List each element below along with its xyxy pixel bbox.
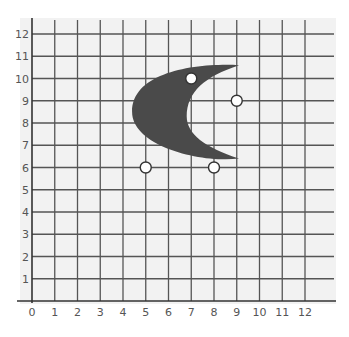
x-tick-label: 4 (120, 306, 127, 319)
x-tick-label: 10 (253, 306, 267, 319)
y-tick-label: 9 (22, 95, 29, 108)
coordinate-grid-diagram: 123456789101112 0123456789101112 (0, 0, 349, 337)
x-axis-labels: 0123456789101112 (29, 306, 313, 319)
y-tick-label: 3 (22, 228, 29, 241)
x-tick-label: 6 (165, 306, 172, 319)
point-circle (231, 95, 242, 106)
grid-svg: 123456789101112 0123456789101112 (0, 0, 349, 337)
x-tick-label: 3 (97, 306, 104, 319)
y-tick-label: 10 (15, 73, 29, 86)
point-circle (209, 162, 220, 173)
y-tick-label: 6 (22, 162, 29, 175)
x-tick-label: 12 (298, 306, 312, 319)
point-circle (140, 162, 151, 173)
y-tick-label: 1 (22, 273, 29, 286)
x-tick-label: 7 (188, 306, 195, 319)
point-circle (186, 73, 197, 84)
y-tick-label: 11 (15, 50, 29, 63)
y-tick-label: 2 (22, 251, 29, 264)
y-tick-label: 7 (22, 139, 29, 152)
y-tick-label: 4 (22, 206, 29, 219)
x-tick-label: 2 (74, 306, 81, 319)
y-tick-label: 5 (22, 184, 29, 197)
x-tick-label: 0 (29, 306, 36, 319)
x-tick-label: 5 (142, 306, 149, 319)
x-tick-label: 8 (211, 306, 218, 319)
y-tick-label: 12 (15, 28, 29, 41)
y-tick-label: 8 (22, 117, 29, 130)
x-tick-label: 9 (233, 306, 240, 319)
x-tick-label: 1 (51, 306, 58, 319)
grid-background (20, 18, 336, 304)
x-tick-label: 11 (275, 306, 289, 319)
